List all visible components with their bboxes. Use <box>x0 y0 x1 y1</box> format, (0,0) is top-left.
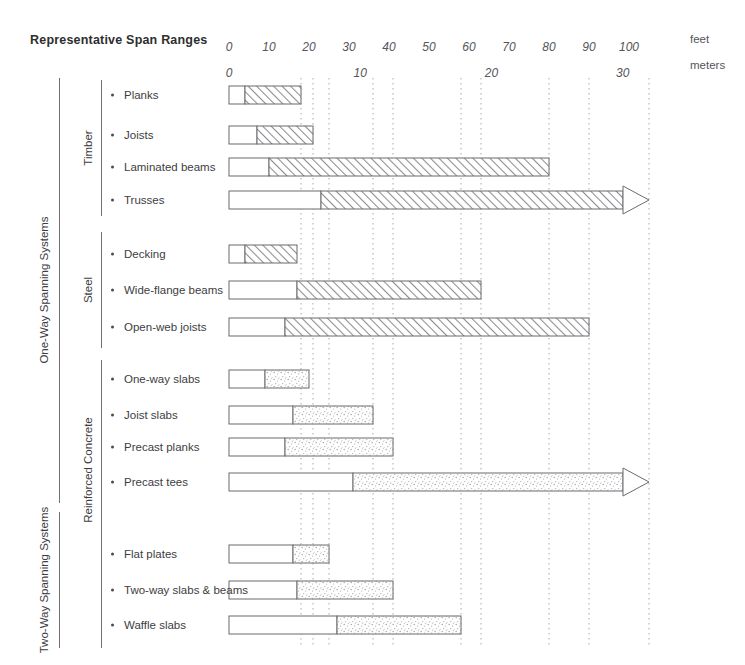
span-bar <box>229 545 329 563</box>
row-bullet <box>111 624 114 627</box>
axis-tick-feet: 60 <box>462 40 475 54</box>
axis-tick-feet: 10 <box>262 40 275 54</box>
axis-tick-meters: 20 <box>485 66 498 80</box>
span-bar-arrowhead <box>623 186 649 214</box>
bars-group <box>229 86 649 634</box>
row-label: Trusses <box>124 194 164 206</box>
span-bar <box>229 468 649 496</box>
axis-unit-feet: feet <box>690 33 709 45</box>
span-bar-range <box>245 86 301 104</box>
axis-tick-meters: 30 <box>616 66 629 80</box>
row-bullet <box>111 414 114 417</box>
row-bullet <box>111 94 114 97</box>
span-bar-lead-in <box>229 281 297 299</box>
system-group-rule <box>59 512 60 648</box>
axis-tick-feet: 50 <box>422 40 435 54</box>
axis-tick-feet: 100 <box>619 40 639 54</box>
span-bar-lead-in <box>229 616 337 634</box>
span-bar <box>229 318 589 336</box>
row-bullet <box>111 253 114 256</box>
material-group-rule <box>101 360 102 648</box>
row-bullet <box>111 553 114 556</box>
system-group-rule <box>59 78 60 503</box>
row-label: Joist slabs <box>124 409 178 421</box>
span-bar <box>229 616 461 634</box>
span-bar-range <box>285 438 393 456</box>
span-bar <box>229 158 549 176</box>
span-bar-lead-in <box>229 406 293 424</box>
row-label: Joists <box>124 129 153 141</box>
row-label: One-way slabs <box>124 373 200 385</box>
span-bar-range <box>297 581 393 599</box>
row-label: Waffle slabs <box>124 619 186 631</box>
span-bar <box>229 126 313 144</box>
material-group-rule <box>101 232 102 348</box>
axis-tick-feet: 80 <box>542 40 555 54</box>
span-bar-range <box>265 370 309 388</box>
row-label: Precast planks <box>124 441 199 453</box>
chart-canvas <box>0 0 745 665</box>
span-bar <box>229 245 297 263</box>
span-bar-range <box>245 245 297 263</box>
material-group-label: Reinforced Concrete <box>82 417 94 522</box>
span-bar-lead-in <box>229 86 245 104</box>
row-label: Laminated beams <box>124 161 215 173</box>
span-bar <box>229 581 393 599</box>
span-range-chart: Representative Span Ranges 0102030405060… <box>0 0 745 665</box>
span-bar-range <box>269 158 549 176</box>
axis-tick-feet: 0 <box>226 40 233 54</box>
axis-tick-feet: 40 <box>382 40 395 54</box>
span-bar-range <box>321 191 623 209</box>
material-group-label: Steel <box>82 277 94 303</box>
span-bar-lead-in <box>229 438 285 456</box>
row-label: Precast tees <box>124 476 188 488</box>
axis-tick-meters: 10 <box>354 66 367 80</box>
span-bar-lead-in <box>229 370 265 388</box>
row-label: Two-way slabs & beams <box>124 584 248 596</box>
row-label: Flat plates <box>124 548 177 560</box>
span-bar <box>229 406 373 424</box>
row-label: Wide-flange beams <box>124 284 223 296</box>
axis-tick-feet: 90 <box>582 40 595 54</box>
row-label: Open-web joists <box>124 321 206 333</box>
system-group-label: Two-Way Spanning Systems <box>38 507 50 654</box>
row-bullet <box>111 166 114 169</box>
span-bar <box>229 438 393 456</box>
span-bar-range <box>257 126 313 144</box>
axis-tick-meters: 0 <box>226 66 233 80</box>
row-bullet <box>111 134 114 137</box>
system-group-label: One-Way Spanning Systems <box>38 216 50 363</box>
row-label: Decking <box>124 248 166 260</box>
span-bar <box>229 186 649 214</box>
span-bar <box>229 281 481 299</box>
span-bar <box>229 370 309 388</box>
span-bar-range <box>293 545 329 563</box>
row-bullet <box>111 199 114 202</box>
row-bullet <box>111 446 114 449</box>
span-bar-lead-in <box>229 545 293 563</box>
span-bar-arrowhead <box>623 468 649 496</box>
axis-tick-feet: 30 <box>342 40 355 54</box>
span-bar-range <box>337 616 461 634</box>
span-bar-lead-in <box>229 318 285 336</box>
row-bullet <box>111 326 114 329</box>
span-bar-lead-in <box>229 191 321 209</box>
row-bullet <box>111 481 114 484</box>
axis-unit-meters: meters <box>690 59 725 71</box>
row-bullet <box>111 589 114 592</box>
material-group-label: Timber <box>82 130 94 165</box>
span-bar-range <box>353 473 623 491</box>
row-label: Planks <box>124 89 159 101</box>
span-bar-range <box>285 318 589 336</box>
axis-tick-feet: 70 <box>502 40 515 54</box>
row-bullet <box>111 289 114 292</box>
span-bar-lead-in <box>229 126 257 144</box>
row-bullet <box>111 378 114 381</box>
axis-tick-feet: 20 <box>302 40 315 54</box>
span-bar-range <box>293 406 373 424</box>
span-bar-lead-in <box>229 158 269 176</box>
span-bar <box>229 86 301 104</box>
span-bar-range <box>297 281 481 299</box>
span-bar-lead-in <box>229 473 353 491</box>
material-group-rule <box>101 80 102 216</box>
